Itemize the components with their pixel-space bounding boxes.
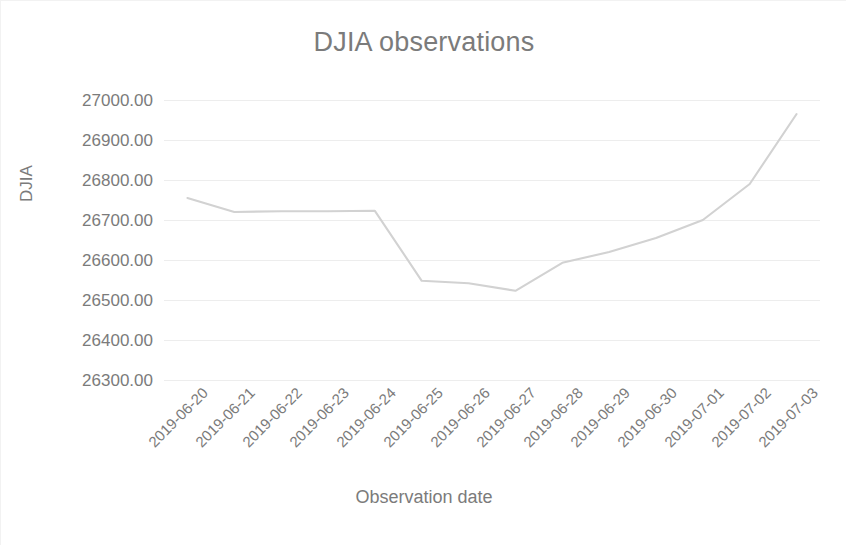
plot-area [164, 100, 820, 380]
chart-title: DJIA observations [1, 27, 846, 58]
y-axis-tick-labels: 27000.0026900.0026800.0026700.0026600.00… [1, 100, 153, 380]
y-tick-label: 26300.00 [1, 372, 153, 389]
series-path [187, 114, 796, 291]
chart-container: DJIA observations DJIA 27000.0026900.002… [0, 0, 846, 545]
y-tick-label: 26800.00 [1, 172, 153, 189]
y-tick-label: 27000.00 [1, 92, 153, 109]
y-tick-label: 26500.00 [1, 292, 153, 309]
x-axis-tick-labels: 2019-06-202019-06-212019-06-222019-06-23… [164, 384, 820, 479]
y-tick-label: 26600.00 [1, 252, 153, 269]
series-line-djia [164, 100, 820, 380]
y-tick-label: 26400.00 [1, 332, 153, 349]
gridline [164, 380, 820, 381]
y-tick-label: 26700.00 [1, 212, 153, 229]
y-tick-label: 26900.00 [1, 132, 153, 149]
x-axis-title: Observation date [1, 487, 846, 508]
